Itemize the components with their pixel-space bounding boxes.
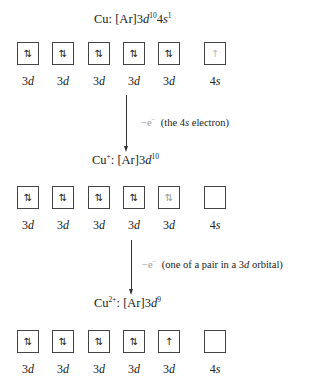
orbital-box: ⇅: [123, 330, 145, 353]
orbital-letter: d: [28, 74, 34, 88]
orbital-label: 4s: [200, 362, 230, 377]
electron-charge: −: [153, 257, 157, 265]
orbital-box: ⇅: [123, 42, 145, 65]
orbital-label: 3d: [84, 218, 114, 233]
species: Cu: [94, 12, 109, 26]
orbital-label: 3d: [154, 74, 184, 89]
exponent: 10: [151, 152, 159, 161]
orbital-label: 3d: [154, 218, 184, 233]
orbital-letter: d: [134, 74, 140, 88]
orbital-letter: s: [216, 362, 221, 376]
orbital-label: 4s: [200, 218, 230, 233]
orbital-letter: d: [169, 74, 175, 88]
orbital-label: 4s: [200, 74, 230, 89]
orbital-label: 3d: [13, 74, 43, 89]
orbital-label: 3d: [13, 362, 43, 377]
species: Cu: [94, 296, 109, 310]
orbital-label: 3d: [48, 218, 78, 233]
orbital-letter: d: [99, 218, 105, 232]
orbital-box: ⇅: [52, 186, 74, 209]
orbital-box: ⇅: [52, 42, 74, 65]
ionization-arrow-line: [131, 240, 132, 290]
orbital-label: 3d: [119, 74, 149, 89]
paired-electrons-icon: ⇅: [59, 192, 67, 203]
orbital-box: ⇅: [88, 42, 110, 65]
orbital-label: 3d: [119, 218, 149, 233]
remove-electron-label: −e−: [141, 117, 156, 128]
orbital-box: ⇅: [88, 186, 110, 209]
orbital-label: 3d: [154, 362, 184, 377]
orbital-letter: d: [134, 362, 140, 376]
exponent: 10: [149, 11, 157, 20]
arrow-down-icon: [124, 146, 128, 152]
orbital-letter: d: [169, 362, 175, 376]
note-text: (the 4: [161, 117, 185, 128]
paired-electrons-icon: ⇅: [95, 336, 103, 347]
single-electron-icon: ↑: [165, 336, 173, 347]
paired-electrons-icon: ⇅: [130, 336, 138, 347]
single-electron-icon: ↑: [211, 48, 219, 59]
paired-electrons-icon: ⇅: [95, 48, 103, 59]
exponent: 1: [168, 11, 172, 20]
orbital-letter: d: [63, 218, 69, 232]
cu-config-title: Cu: [Ar]3d104s1: [94, 12, 172, 27]
paired-electrons-icon: ⇅: [24, 192, 32, 203]
arrow-down-icon: [129, 289, 133, 295]
paired-electrons-icon: ⇅: [95, 192, 103, 203]
cu-2plus-config-title: Cu2+: [Ar]3d9: [94, 296, 161, 311]
orbital-box: ⇅: [88, 330, 110, 353]
orbital-letter: s: [216, 218, 221, 232]
orbital-box: ⇅: [123, 186, 145, 209]
orbital-letter: d: [28, 362, 34, 376]
orbital-letter: d: [99, 74, 105, 88]
paired-electrons-icon: ⇅: [165, 192, 173, 203]
orbital-label: 3d: [119, 362, 149, 377]
orbital-letter: d: [63, 362, 69, 376]
config-prefix: : [Ar]3: [117, 296, 151, 310]
paired-electrons-icon: ⇅: [130, 192, 138, 203]
note-text: orbital): [249, 259, 283, 270]
config-prefix: : [Ar]3: [109, 12, 143, 26]
note-text: electron): [189, 117, 229, 128]
orbital-letter: d: [28, 218, 34, 232]
paired-electrons-icon: ⇅: [165, 48, 173, 59]
cu-plus-config-title: Cu+: [Ar]3d10: [92, 153, 159, 168]
paired-electrons-icon: ⇅: [24, 48, 32, 59]
orbital-box: ⇅: [158, 42, 180, 65]
orbital-box: ↑: [158, 330, 180, 353]
orbital-label: 3d: [48, 362, 78, 377]
paired-electrons-icon: ⇅: [130, 48, 138, 59]
orbital-box: ⇅: [52, 330, 74, 353]
orbital-box-4s: ↑: [204, 42, 226, 65]
orbital-letter: s: [216, 74, 221, 88]
orbital-letter: d: [169, 218, 175, 232]
orbital-box: ⇅: [17, 330, 39, 353]
orbital-letter: d: [63, 74, 69, 88]
transition-note: −e− (one of a pair in a 3d orbital): [142, 257, 283, 270]
ion-charge: 2+: [109, 295, 117, 304]
note-text: (one of a pair in a 3: [162, 259, 244, 270]
minus-e: −e: [142, 259, 153, 270]
orbital-box: ⇅: [17, 42, 39, 65]
species: Cu: [92, 153, 107, 167]
exponent: 9: [157, 295, 161, 304]
paired-electrons-icon: ⇅: [24, 336, 32, 347]
remove-electron-label: −e−: [142, 259, 157, 270]
orbital-label: 3d: [13, 218, 43, 233]
orbital-box-4s: [204, 330, 226, 353]
config-prefix: : [Ar]3: [111, 153, 145, 167]
paired-electrons-icon: ⇅: [59, 48, 67, 59]
orbital-label: 3d: [48, 74, 78, 89]
orbital-box-4s: [204, 186, 226, 209]
electron-charge: −: [152, 115, 156, 123]
orbital-letter: d: [99, 362, 105, 376]
orbital-label: 3d: [84, 362, 114, 377]
minus-e: −e: [141, 117, 152, 128]
ionization-arrow-line: [126, 95, 127, 147]
orbital-letter: d: [134, 218, 140, 232]
paired-electrons-icon: ⇅: [59, 336, 67, 347]
orbital-box: ⇅: [17, 186, 39, 209]
orbital-label: 3d: [84, 74, 114, 89]
orbital-box: ⇅: [158, 186, 180, 209]
transition-note: −e− (the 4s electron): [141, 115, 229, 128]
